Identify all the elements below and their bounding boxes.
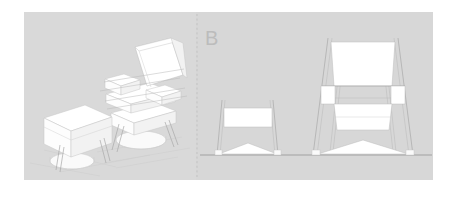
section-letter-label: B bbox=[205, 27, 219, 49]
chair-elev-left-foot bbox=[312, 150, 320, 155]
chair-elev-backrest bbox=[331, 42, 395, 86]
elevation-panel: B bbox=[196, 12, 433, 180]
ottoman-elev-left-foot bbox=[215, 150, 222, 155]
furniture-drawing-svg: B bbox=[0, 0, 455, 197]
chair-pedestal-foot bbox=[116, 131, 166, 149]
chair-elev-right-foot bbox=[406, 150, 414, 155]
ottoman-elev-right-foot bbox=[274, 150, 281, 155]
chair-elev-armrest-block-left bbox=[321, 86, 335, 104]
perspective-panel bbox=[24, 12, 196, 180]
drawing-canvas: B bbox=[0, 0, 455, 197]
chair-elev-armrest-block-right bbox=[391, 86, 405, 104]
ottoman-elev-cushion bbox=[224, 108, 272, 127]
